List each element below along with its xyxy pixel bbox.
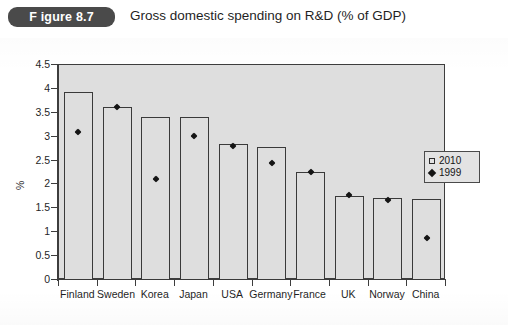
bar-france xyxy=(296,172,325,280)
x-axis-tick xyxy=(97,280,98,286)
y-axis-tick-label: 4.5 xyxy=(4,58,50,70)
y-axis-labels: 00.511.522.533.544.5 xyxy=(0,38,50,288)
plot-area xyxy=(58,64,445,279)
bar-sweden xyxy=(103,107,132,280)
chart-container: 00.511.522.533.544.5 % 20101999 FinlandS… xyxy=(0,38,508,325)
y-axis-tick xyxy=(51,255,58,256)
legend-item-2010: 2010 xyxy=(429,155,475,167)
diamond-icon xyxy=(428,169,436,177)
x-axis-tick xyxy=(174,280,175,286)
bar-usa xyxy=(219,144,248,280)
y-axis-tick xyxy=(51,207,58,208)
figure-header: F igure 8.7 Gross domestic spending on R… xyxy=(0,0,508,40)
x-axis-tick xyxy=(252,280,253,286)
x-axis-tick-label: USA xyxy=(221,288,243,300)
legend-item-1999: 1999 xyxy=(429,167,475,179)
x-axis-tick-label: China xyxy=(412,288,439,300)
x-axis-tick xyxy=(368,280,369,286)
x-axis-tick-label: Finland xyxy=(60,288,94,300)
y-axis-tick xyxy=(51,183,58,184)
y-axis-tick-label: 4 xyxy=(4,82,50,94)
y-axis-tick xyxy=(51,88,58,89)
x-axis-tick-label: Norway xyxy=(369,288,405,300)
x-axis-tick xyxy=(135,280,136,286)
bar-norway xyxy=(373,198,402,280)
figure-title: Gross domestic spending on R&D (% of GDP… xyxy=(130,8,406,23)
y-axis-tick-label: 1.5 xyxy=(4,201,50,213)
x-axis-tick xyxy=(290,280,291,286)
figure-number-badge: F igure 8.7 xyxy=(8,7,115,27)
y-axis-tick-label: 2 xyxy=(4,177,50,189)
y-axis-tick xyxy=(51,160,58,161)
y-axis-tick-label: 3.5 xyxy=(4,106,50,118)
legend-label: 2010 xyxy=(439,155,461,167)
x-axis-tick xyxy=(445,280,446,286)
square-icon xyxy=(429,158,435,164)
bar-uk xyxy=(335,196,364,280)
bar-japan xyxy=(180,117,209,280)
plot-series-layer xyxy=(59,65,444,278)
x-axis-tick xyxy=(58,280,59,286)
bar-korea xyxy=(141,117,170,280)
y-axis-tick-label: 2.5 xyxy=(4,154,50,166)
y-axis-tick-label: 1 xyxy=(4,225,50,237)
chart-legend: 20101999 xyxy=(424,151,480,183)
x-axis-tick xyxy=(406,280,407,286)
y-axis-tick xyxy=(51,136,58,137)
bar-finland xyxy=(64,92,93,280)
y-axis-title: % xyxy=(14,181,26,190)
x-axis-tick-label: France xyxy=(293,288,326,300)
y-axis-tick-label: 0.5 xyxy=(4,249,50,261)
y-axis-tick xyxy=(51,112,58,113)
x-axis-tick-label: Korea xyxy=(141,288,169,300)
y-axis-tick xyxy=(51,231,58,232)
x-axis-tick-label: Japan xyxy=(179,288,208,300)
x-axis-tick xyxy=(329,280,330,286)
legend-label: 1999 xyxy=(439,167,461,179)
x-axis-tick-label: Germany xyxy=(249,288,292,300)
y-axis-tick-label: 3 xyxy=(4,130,50,142)
y-axis-tick xyxy=(51,64,58,65)
bar-germany xyxy=(257,147,286,280)
x-axis-tick xyxy=(213,280,214,286)
y-axis-tick-label: 0 xyxy=(4,273,50,285)
y-axis-tick xyxy=(51,279,58,280)
x-axis-tick-label: Sweden xyxy=(97,288,135,300)
x-axis-tick-label: UK xyxy=(341,288,356,300)
